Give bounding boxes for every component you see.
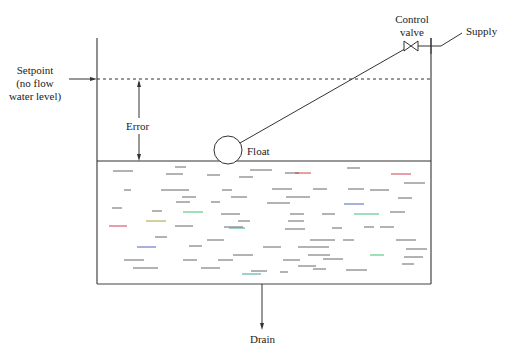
- setpoint-label-line3: water level): [2, 90, 68, 103]
- setpoint-label: Setpoint (no flow water level): [2, 64, 68, 103]
- control-valve-label: Control valve: [390, 13, 434, 39]
- control-valve-label-line1: Control: [390, 13, 434, 26]
- control-valve-label-line2: valve: [390, 26, 434, 39]
- drain-label: Drain: [250, 333, 275, 346]
- control-valve: [404, 41, 418, 51]
- float: [214, 136, 242, 164]
- float-linkage: [240, 46, 410, 143]
- supply-label: Supply: [466, 25, 497, 38]
- error-label: Error: [126, 120, 149, 133]
- setpoint-arrow: [69, 77, 97, 81]
- setpoint-label-line1: Setpoint: [2, 64, 68, 77]
- float-label: Float: [247, 145, 270, 158]
- water-dashes: [109, 167, 427, 274]
- setpoint-label-line2: (no flow: [2, 77, 68, 90]
- diagram-canvas: [0, 0, 512, 358]
